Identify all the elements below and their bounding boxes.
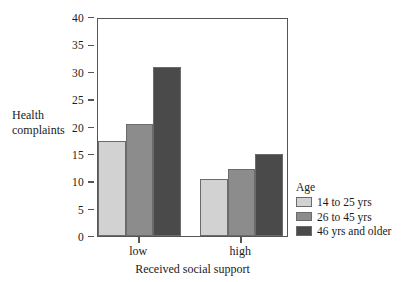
y-axis-tick-label: 35 [72, 38, 84, 52]
legend-swatch [296, 197, 312, 207]
bar [228, 169, 256, 236]
y-axis-tick: 40 [0, 11, 97, 25]
y-axis-tick-label: 15 [72, 148, 84, 162]
legend-item-label: 26 to 45 yrs [317, 210, 372, 224]
x-axis-tick-label: low [98, 244, 178, 258]
legend-item-label: 14 to 25 yrs [317, 195, 372, 209]
y-axis-tick-mark [88, 181, 94, 182]
bar [98, 141, 126, 236]
y-axis-tick-mark [88, 17, 94, 18]
y-axis-tick: 5 [0, 203, 97, 217]
legend-title: Age [296, 180, 410, 194]
bar [126, 124, 154, 236]
y-axis-tick-mark [88, 72, 94, 73]
y-axis-tick: 35 [0, 38, 97, 52]
y-axis-tick-mark [88, 127, 94, 128]
y-axis-tick: 10 [0, 175, 97, 189]
y-axis-tick-label: 40 [72, 11, 84, 25]
legend-item: 26 to 45 yrs [296, 210, 410, 224]
legend-item-label: 46 yrs and older [317, 224, 391, 238]
plot-area [97, 18, 288, 237]
y-axis-tick-label: 5 [78, 203, 84, 217]
y-axis-tick-label: 20 [72, 121, 84, 135]
legend-item: 46 yrs and older [296, 224, 410, 238]
y-axis-tick: 15 [0, 148, 97, 162]
x-axis-tick-mark [138, 237, 139, 243]
x-axis-tick-label: high [200, 244, 280, 258]
y-axis-tick-mark [88, 45, 94, 46]
y-axis-tick: 25 [0, 93, 97, 107]
y-axis-tick: 30 [0, 66, 97, 80]
y-axis-tick: 0 [0, 230, 97, 244]
x-axis-tick-mark [240, 237, 241, 243]
y-axis-tick-mark [88, 154, 94, 155]
bar-chart-figure: Health complaints 0510152025303540 lowhi… [0, 0, 410, 282]
legend-swatch [296, 226, 312, 236]
y-axis-tick-label: 25 [72, 93, 84, 107]
legend-items: 14 to 25 yrs26 to 45 yrs46 yrs and older [296, 195, 410, 238]
bar [153, 67, 181, 236]
y-axis: 0510152025303540 [0, 0, 97, 282]
y-axis-tick-label: 10 [72, 175, 84, 189]
legend: Age 14 to 25 yrs26 to 45 yrs46 yrs and o… [296, 180, 410, 239]
x-axis-title: Received social support [97, 262, 288, 276]
legend-item: 14 to 25 yrs [296, 195, 410, 209]
y-axis-tick-label: 0 [78, 230, 84, 244]
bar [200, 179, 228, 236]
y-axis-tick: 20 [0, 121, 97, 135]
y-axis-tick-mark [88, 236, 94, 237]
bar [255, 154, 283, 236]
y-axis-tick-mark [88, 209, 94, 210]
y-axis-tick-label: 30 [72, 66, 84, 80]
legend-swatch [296, 212, 312, 222]
y-axis-tick-mark [88, 99, 94, 100]
